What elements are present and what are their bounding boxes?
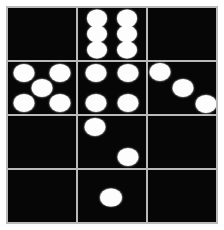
die-pip xyxy=(150,63,171,81)
die-pip xyxy=(118,94,139,112)
dice-grid-figure xyxy=(0,0,224,230)
die-pip xyxy=(172,79,193,97)
die-pip xyxy=(85,94,106,112)
die-cell xyxy=(148,116,216,168)
die-cell xyxy=(8,8,76,60)
die-cell xyxy=(78,116,146,168)
die-cell xyxy=(8,116,76,168)
die-cell xyxy=(78,62,146,114)
die-pip xyxy=(117,10,137,27)
die-cell xyxy=(148,62,216,114)
die-pip xyxy=(49,64,70,82)
die-pip xyxy=(87,41,107,58)
die-pip xyxy=(85,64,106,82)
die-pip xyxy=(100,188,122,207)
die-cell xyxy=(78,170,146,222)
die-pip xyxy=(117,148,138,166)
die-cell xyxy=(8,62,76,114)
die-pip xyxy=(49,94,70,112)
die-pip xyxy=(118,64,139,82)
die-pip xyxy=(32,79,53,97)
dice-grid xyxy=(6,6,218,224)
die-cell xyxy=(78,8,146,60)
die-cell xyxy=(148,8,216,60)
die-pip xyxy=(14,64,35,82)
die-pip xyxy=(85,118,106,136)
die-pip xyxy=(14,94,35,112)
die-cell xyxy=(148,170,216,222)
die-pip xyxy=(195,95,216,113)
die-cell xyxy=(8,170,76,222)
die-pip xyxy=(87,10,107,27)
die-pip xyxy=(117,41,137,58)
